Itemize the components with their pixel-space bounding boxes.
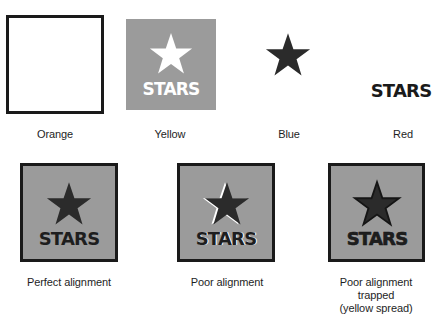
- trapped-label-line-1: Poor alignment: [339, 276, 412, 289]
- star-icon: [265, 33, 311, 77]
- poor-alignment-label: Poor alignment: [191, 276, 264, 289]
- trapped-label: Poor alignment trapped (yellow spread): [339, 276, 412, 315]
- stars-text: STARS: [196, 230, 257, 248]
- star-icon: [354, 182, 400, 226]
- stars-knockout-text: STARS: [142, 81, 199, 98]
- trapped-alignment-plate: STARS: [328, 163, 425, 262]
- trapped-label-line-2: trapped: [339, 289, 412, 302]
- red-stars-text: STARS: [371, 82, 432, 100]
- yellow-label: Yellow: [155, 128, 186, 141]
- star-icon: [204, 182, 250, 226]
- orange-label: Orange: [37, 128, 73, 141]
- perfect-alignment-label: Perfect alignment: [27, 276, 111, 289]
- orange-separation-plate: [6, 15, 104, 114]
- red-label: Red: [393, 128, 413, 141]
- star-knockout-icon: [149, 33, 193, 75]
- stars-text: STARS: [39, 230, 100, 248]
- blue-label: Blue: [278, 128, 300, 141]
- stars-text: STARS: [347, 230, 408, 248]
- yellow-separation-plate: STARS: [126, 19, 216, 110]
- perfect-alignment-plate: STARS: [20, 163, 118, 262]
- trapped-label-line-3: (yellow spread): [339, 302, 412, 315]
- poor-alignment-plate: STARS STARS: [177, 163, 275, 262]
- star-icon: [46, 182, 92, 226]
